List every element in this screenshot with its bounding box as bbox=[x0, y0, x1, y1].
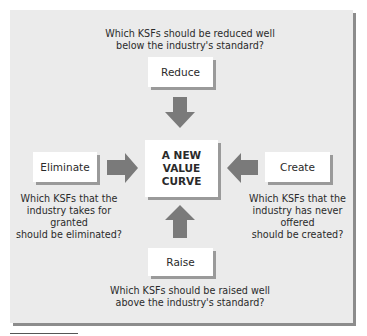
create-label: Create bbox=[280, 161, 315, 173]
create-question-line1: Which KSFs that the bbox=[240, 193, 355, 205]
raise-question: Which KSFs should be raised well above t… bbox=[80, 285, 300, 309]
create-question: Which KSFs that the industry has never o… bbox=[240, 193, 355, 241]
center-line2: VALUE bbox=[163, 162, 201, 175]
eliminate-question-line2: industry takes for granted bbox=[14, 205, 124, 229]
eliminate-question-line3: should be eliminated? bbox=[14, 229, 124, 241]
center-line1: A NEW bbox=[162, 149, 201, 162]
reduce-question: Which KSFs should be reduced well below … bbox=[80, 28, 300, 52]
create-question-line3: should be created? bbox=[240, 229, 355, 241]
eliminate-question-line1: Which KSFs that the bbox=[14, 193, 124, 205]
new-value-curve-box: A NEW VALUE CURVE bbox=[145, 140, 218, 197]
reduce-question-line1: Which KSFs should be reduced well bbox=[80, 28, 300, 40]
create-box: Create bbox=[265, 152, 330, 182]
arrow-down-icon bbox=[165, 97, 197, 129]
arrow-right-icon bbox=[107, 153, 139, 183]
eliminate-question: Which KSFs that the industry takes for g… bbox=[14, 193, 124, 241]
raise-box: Raise bbox=[148, 248, 213, 276]
center-line3: CURVE bbox=[162, 175, 202, 188]
arrow-left-icon bbox=[227, 153, 259, 183]
raise-label: Raise bbox=[166, 256, 194, 268]
reduce-label: Reduce bbox=[161, 66, 200, 78]
reduce-question-line2: below the industry's standard? bbox=[80, 40, 300, 52]
eliminate-label: Eliminate bbox=[40, 161, 89, 173]
reduce-box: Reduce bbox=[148, 57, 213, 87]
arrow-up-icon bbox=[165, 205, 197, 239]
raise-question-line2: above the industry's standard? bbox=[80, 297, 300, 309]
create-question-line2: industry has never offered bbox=[240, 205, 355, 229]
eliminate-box: Eliminate bbox=[33, 152, 97, 182]
caption-divider bbox=[10, 333, 78, 334]
raise-question-line1: Which KSFs should be raised well bbox=[80, 285, 300, 297]
